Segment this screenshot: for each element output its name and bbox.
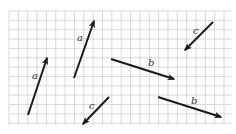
vector-label: a (77, 32, 83, 43)
vector-label: c (89, 100, 95, 111)
vector-label: a (32, 70, 38, 81)
vector-a1: a (28, 58, 47, 115)
vector-label: b (148, 57, 154, 68)
arrow-line (185, 22, 213, 50)
vector-label: b (191, 95, 197, 106)
vectors-layer: aabccb (28, 21, 221, 124)
vector-c1: c (185, 22, 213, 50)
arrow-line (111, 59, 174, 79)
vector-c2: c (83, 97, 109, 124)
vector-label: c (193, 25, 199, 36)
arrow-line (83, 97, 109, 124)
vector-b1: b (111, 57, 174, 79)
arrow-line (28, 58, 47, 115)
vector-diagram: aabccb (0, 0, 236, 134)
